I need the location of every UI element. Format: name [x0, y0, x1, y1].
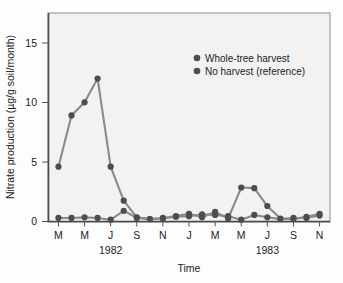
data-point-marker	[277, 216, 283, 222]
data-point-marker	[95, 75, 101, 81]
x-tick-group: MMJSNJMMJSN19821983	[54, 222, 323, 256]
data-point-marker	[108, 164, 114, 170]
data-point-marker	[316, 212, 322, 218]
data-point-marker	[81, 99, 87, 105]
data-point-marker	[251, 212, 257, 218]
data-point-marker	[238, 184, 244, 190]
data-point-marker	[108, 217, 114, 223]
x-tick-label: J	[186, 229, 191, 241]
x-axis-title: Time	[178, 262, 201, 274]
x-tick-label: M	[237, 229, 246, 241]
y-axis-title: Nitrate production (µg/g soil/month)	[4, 35, 16, 199]
x-tick-label: N	[316, 229, 324, 241]
y-tick-group: 0 5 10 15	[25, 37, 48, 228]
data-point-marker	[147, 216, 153, 222]
data-point-marker	[121, 208, 127, 214]
data-point-marker	[264, 214, 270, 220]
legend-marker-icon	[194, 68, 201, 75]
x-axis-period-label: 1982	[99, 244, 123, 256]
data-point-marker	[68, 112, 74, 118]
legend-label: Whole-tree harvest	[205, 53, 290, 64]
y-tick-label-15: 15	[25, 37, 37, 49]
data-point-marker	[199, 211, 205, 217]
data-point-marker	[238, 217, 244, 223]
x-tick-label: M	[54, 229, 63, 241]
data-point-marker	[212, 212, 218, 218]
data-point-marker	[290, 215, 296, 221]
chart-figure: 0 5 10 15 Nitrate production (µg/g soil/…	[0, 0, 343, 283]
x-tick-label: M	[211, 229, 220, 241]
data-point-marker	[225, 213, 231, 219]
legend-label: No harvest (reference)	[205, 66, 305, 77]
x-axis-period-label: 1983	[256, 244, 280, 256]
data-point-marker	[55, 164, 61, 170]
plot-area-background	[48, 13, 330, 222]
x-tick-label: N	[159, 229, 167, 241]
x-tick-label: M	[80, 229, 89, 241]
data-point-marker	[134, 215, 140, 221]
data-point-marker	[264, 203, 270, 209]
data-point-marker	[81, 214, 87, 220]
x-tick-label: J	[265, 229, 270, 241]
data-point-marker	[303, 215, 309, 221]
x-tick-label: S	[133, 229, 140, 241]
legend-marker-icon	[194, 55, 201, 62]
y-tick-label-0: 0	[31, 215, 37, 227]
y-tick-label-10: 10	[25, 96, 37, 108]
data-point-marker	[95, 215, 101, 221]
data-point-marker	[173, 214, 179, 220]
x-tick-label: J	[108, 229, 113, 241]
nitrate-production-line-chart: 0 5 10 15 Nitrate production (µg/g soil/…	[0, 0, 343, 283]
data-point-marker	[186, 213, 192, 219]
data-point-marker	[251, 185, 257, 191]
data-point-marker	[55, 215, 61, 221]
data-point-marker	[160, 215, 166, 221]
data-point-marker	[121, 198, 127, 204]
x-tick-label: S	[290, 229, 297, 241]
data-point-marker	[68, 215, 74, 221]
y-tick-label-5: 5	[31, 156, 37, 168]
